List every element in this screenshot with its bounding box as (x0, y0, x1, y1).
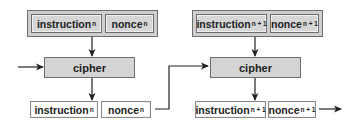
output-instruction-1-sub: n (90, 106, 94, 113)
output-nonce-1: noncen (101, 101, 151, 118)
cipher-1-label: cipher (73, 62, 106, 74)
output-nonce-2-label: nonce (269, 104, 300, 116)
cipher-1: cipher (44, 57, 135, 78)
output-instruction-1: instructionn (30, 101, 98, 118)
input-instruction-2-sub: n + 1 (252, 20, 267, 27)
output-nonce-2-sub: n + 1 (300, 106, 315, 113)
input-instruction-1-sub: n (92, 20, 96, 27)
input-instruction-2: instructionn + 1 (196, 14, 267, 33)
cipher-2-label: cipher (239, 62, 272, 74)
input-instruction-2-label: instruction (196, 18, 250, 30)
output-instruction-2-label: instruction (195, 104, 249, 116)
input-instruction-1-label: instruction (37, 18, 91, 30)
input-nonce-1-label: nonce (112, 18, 143, 30)
output-nonce-2: noncen + 1 (268, 101, 316, 118)
input-nonce-1: noncen (105, 14, 154, 33)
input-nonce-2-label: nonce (271, 18, 302, 30)
input-nonce-2: noncen + 1 (270, 14, 319, 33)
output-nonce-1-sub: n (140, 106, 144, 113)
input-nonce-1-sub: n (143, 20, 147, 27)
input-nonce-2-sub: n + 1 (303, 20, 318, 27)
input-instruction-1: instructionn (31, 14, 102, 33)
output-instruction-2: instructionn + 1 (195, 101, 266, 118)
output-nonce-1-label: nonce (108, 104, 139, 116)
cipher-2: cipher (210, 57, 301, 78)
output-instruction-2-sub: n + 1 (251, 106, 266, 113)
output-instruction-1-label: instruction (34, 104, 88, 116)
